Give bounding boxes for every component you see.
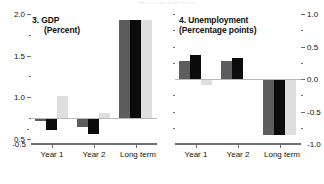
unemployment-ytick-1.0 xyxy=(301,14,305,15)
gdp-ylabel-2.0: 2.0 xyxy=(14,11,25,19)
unemployment-xtick-year-2 xyxy=(238,144,239,148)
unemployment-ylabel-1.0: 1.0 xyxy=(307,11,318,19)
unemployment-ytick-left-1.0 xyxy=(173,14,175,15)
gdp-xlabel-year-2: Year 2 xyxy=(73,150,115,160)
unemployment-xtick-long-term xyxy=(280,144,281,148)
unemployment-bar-year1-series1 xyxy=(179,61,190,79)
gdp-ytick-minor-0.75 xyxy=(29,118,31,119)
gdp-xtick-year-1 xyxy=(52,144,53,148)
unemployment-ytick-left-neg0.5 xyxy=(173,112,175,113)
unemployment-bar-year1-series2 xyxy=(190,55,201,79)
unemployment-xtick-year-1 xyxy=(196,144,197,148)
gdp-ylabel-1.5: 1.5 xyxy=(14,53,25,61)
gdp-xtick-year-2 xyxy=(94,144,95,148)
gdp-ytick-0.5 xyxy=(27,139,31,140)
gdp-bar-longterm-series2 xyxy=(130,20,141,119)
cut-off-figure-title: Effects of Labor Market Reforms xyxy=(92,0,242,5)
gdp-xtick-long-term xyxy=(136,144,137,148)
unemployment-ytick-minor-neg0.25 xyxy=(301,95,303,96)
gdp-bar-year2-series2 xyxy=(88,119,99,134)
unemployment-ytick-0.0 xyxy=(301,79,305,80)
unemployment-ytick-0.5 xyxy=(301,47,305,48)
gdp-plot-area: 2.0 1.5 1.0 0.5 Year 1 Year 2 Long term xyxy=(31,14,157,144)
unemployment-ytick-left-0.75 xyxy=(173,30,175,31)
gdp-bar-year1-series2 xyxy=(46,119,57,131)
unemployment-ytick-minor-neg0.75 xyxy=(301,128,303,129)
gdp-bar-longterm-series3 xyxy=(141,20,152,119)
gdp-bar-year2-series3 xyxy=(99,113,110,118)
unemployment-bar-longterm-series2 xyxy=(274,80,285,135)
unemployment-ytick-left-neg0.75 xyxy=(173,128,175,129)
gdp-xlabel-long-term: Long term xyxy=(115,150,161,160)
gdp-ylabel-neg0.5: -0.5 xyxy=(0,141,26,149)
unemployment-ytick-minor-0.75 xyxy=(301,30,303,31)
unemployment-ylabel-0.5: 0.5 xyxy=(307,44,318,52)
gdp-bar-year1-series1 xyxy=(35,119,46,121)
gdp-ylabel-1.0: 1.0 xyxy=(14,94,25,102)
gdp-ytick-minor-neg0.25 xyxy=(27,129,29,130)
gdp-ytick-minor-1.25 xyxy=(29,76,31,77)
unemployment-xlabel-long-term: Long term xyxy=(259,150,305,160)
unemployment-plot-area: 1.0 0.5 0.0 -0.5 -1.0 Year 1 Year 2 Long… xyxy=(175,14,301,144)
unemployment-bar-longterm-series3 xyxy=(285,80,296,135)
unemployment-bar-year2-series1 xyxy=(221,61,232,79)
unemployment-xlabel-year-1: Year 1 xyxy=(175,150,217,160)
unemployment-ytick-left-neg0.25 xyxy=(173,95,175,96)
gdp-bar-year2-series1 xyxy=(77,119,88,127)
unemployment-ytick-neg0.5 xyxy=(301,112,305,113)
gdp-ytick-minor-1.75 xyxy=(29,35,31,36)
chart-panel-gdp: 3. GDP (Percent) 2.0 1.5 1.0 0.5 Year 1 … xyxy=(0,14,162,164)
gdp-ytick-1.5 xyxy=(27,56,31,57)
unemployment-ylabel-0.0: 0.0 xyxy=(307,76,318,84)
gdp-bar-year1-series3 xyxy=(57,96,68,118)
unemployment-ylabel-neg1.0: -1.0 xyxy=(307,141,321,149)
unemployment-bar-longterm-series1 xyxy=(263,80,274,135)
unemployment-bar-year1-series3 xyxy=(201,80,212,85)
gdp-xlabel-year-1: Year 1 xyxy=(31,150,73,160)
unemployment-xlabel-year-2: Year 2 xyxy=(217,150,259,160)
unemployment-ytick-left-0.25 xyxy=(173,63,175,64)
gdp-ytick-1.0 xyxy=(27,97,31,98)
unemployment-ytick-minor-0.25 xyxy=(301,63,303,64)
gdp-bar-longterm-series1 xyxy=(119,20,130,119)
unemployment-bar-year2-series2 xyxy=(232,58,243,79)
gdp-ytick-2.0 xyxy=(27,14,31,15)
chart-panel-unemployment: 4. Unemployment (Percentage points) 1.0 … xyxy=(162,14,324,164)
unemployment-ytick-left-0.5 xyxy=(173,47,175,48)
unemployment-ylabel-neg0.5: -0.5 xyxy=(307,109,321,117)
